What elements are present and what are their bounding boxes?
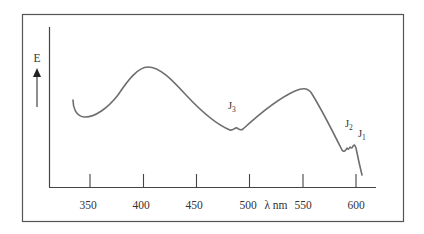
tick-label-500: 500 [239, 199, 257, 211]
tick-label-400: 400 [132, 199, 150, 211]
annotation-j3: J3 [228, 100, 236, 114]
up-arrow-icon [33, 68, 41, 107]
spectrum-chart: 350 400 450 500 λ nm 550 600 E J3 J2 J1 [0, 0, 424, 234]
tick-label-600: 600 [347, 199, 365, 211]
x-ticks [90, 174, 356, 187]
tick-label-350: 350 [79, 199, 97, 211]
tick-label-550: 550 [294, 199, 312, 211]
tick-label-450: 450 [185, 199, 203, 211]
annotation-j2: J2 [345, 118, 353, 132]
annotation-j1: J1 [358, 128, 366, 142]
spectrum-curve [73, 67, 362, 175]
y-axis-label: E [33, 52, 40, 64]
x-axis-label: λ nm [264, 199, 287, 211]
